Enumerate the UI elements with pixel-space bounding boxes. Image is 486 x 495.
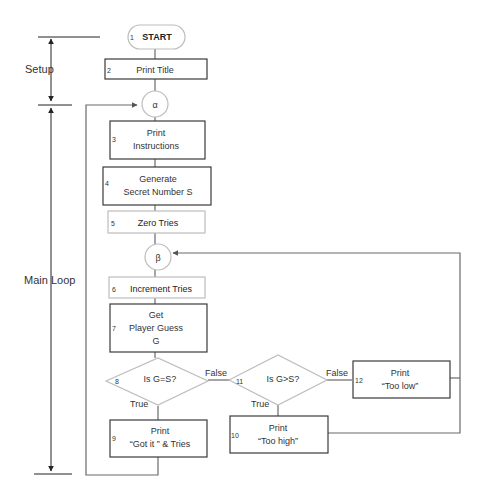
node-label-line3: G xyxy=(152,336,159,346)
get-player-guess-box[interactable]: 7 Get Player Guess G xyxy=(110,304,207,352)
node-number: 9 xyxy=(112,435,116,442)
edge-label-true: True xyxy=(130,399,148,409)
node-label-line1: Print xyxy=(151,426,170,436)
increment-tries-box[interactable]: 6 Increment Tries xyxy=(109,277,205,298)
node-number: 5 xyxy=(111,220,115,227)
node-label-line2: Player Guess xyxy=(129,323,184,333)
print-too-high-box[interactable]: 10 Print “Too high” xyxy=(230,416,328,453)
node-label: Zero Tries xyxy=(138,218,179,228)
node-label: α xyxy=(152,100,157,110)
node-number: 2 xyxy=(107,67,111,74)
decision-g-greater-s[interactable]: 11 Is G>S? xyxy=(229,355,327,405)
main-loop-label: Main Loop xyxy=(24,274,75,286)
node-label: Increment Tries xyxy=(130,284,193,294)
node-label-line1: Print xyxy=(269,423,288,433)
start-terminator[interactable]: 1 START xyxy=(128,25,185,49)
decision-g-equals-s[interactable]: 8 Is G=S? xyxy=(106,358,208,405)
edge-label-false: False xyxy=(326,368,348,378)
generate-secret-box[interactable]: 4 Generate Secret Number S xyxy=(103,167,211,205)
node-number: 1 xyxy=(130,34,134,41)
print-too-low-box[interactable]: 12 Print “Too low” xyxy=(353,361,450,398)
node-label: β xyxy=(155,253,160,263)
node-label-line2: “Got it ” & Tries xyxy=(130,439,191,449)
beta-connector[interactable]: β xyxy=(145,244,171,270)
main-loop-dimension xyxy=(34,108,72,474)
node-label: START xyxy=(142,32,172,42)
zero-tries-box[interactable]: 5 Zero Tries xyxy=(108,211,205,233)
edge-label-false: False xyxy=(205,368,227,378)
node-number: 7 xyxy=(112,325,116,332)
node-label-line1: Generate xyxy=(139,174,177,184)
print-got-it-box[interactable]: 9 Print “Got it ” & Tries xyxy=(110,420,207,457)
node-number: 8 xyxy=(115,378,119,385)
node-label: Is G=S? xyxy=(144,374,177,384)
node-label-line2: “Too low” xyxy=(382,381,419,391)
connectors xyxy=(86,49,460,475)
edge-label-true: True xyxy=(251,399,269,409)
node-number: 4 xyxy=(105,180,109,187)
node-label-line1: Print xyxy=(391,368,410,378)
node-number: 10 xyxy=(231,432,239,439)
setup-label: Setup xyxy=(25,63,54,75)
node-label-line2: Instructions xyxy=(133,141,180,151)
alpha-connector[interactable]: α xyxy=(142,91,168,117)
node-label-line1: Get xyxy=(149,310,164,320)
node-label: Is G>S? xyxy=(267,374,300,384)
print-title-box[interactable]: 2 Print Title xyxy=(105,59,207,79)
node-label-line1: Print xyxy=(147,128,166,138)
node-number: 11 xyxy=(236,378,243,385)
print-instructions-box[interactable]: 3 Print Instructions xyxy=(110,121,205,159)
node-label-line2: Secret Number S xyxy=(123,187,192,197)
node-label-line2: “Too high” xyxy=(258,436,298,446)
flowchart: Setup Main Loop 1 START 2 xyxy=(0,0,486,495)
node-number: 3 xyxy=(112,136,116,143)
node-label: Print Title xyxy=(136,65,174,75)
node-number: 12 xyxy=(355,377,363,384)
node-number: 6 xyxy=(112,286,116,293)
